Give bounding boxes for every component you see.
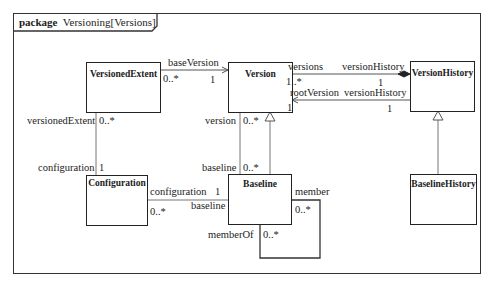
class-versioned-extent[interactable]: VersionedExtent	[86, 62, 161, 113]
diagram-edges	[0, 0, 490, 286]
class-name: Version	[229, 69, 292, 79]
role-version-history-top: versionHistory	[342, 62, 404, 73]
package-keyword: package	[19, 16, 58, 28]
class-version[interactable]: Version	[228, 62, 293, 113]
mult-member-of: 0..*	[263, 230, 279, 241]
mult-base-version-target: 1	[210, 75, 215, 86]
role-baseline-lower: baseline	[191, 201, 225, 212]
class-version-history[interactable]: VersionHistory	[410, 61, 475, 112]
mult-configuration-lower: 1	[215, 187, 220, 198]
class-name: VersionedExtent	[87, 69, 160, 79]
mult-versioned-extent: 0..*	[99, 116, 115, 127]
role-baseline-upper: baseline	[202, 163, 236, 174]
class-name: Configuration	[87, 178, 147, 188]
mult-member: 0..*	[295, 205, 311, 216]
package-title: package Versioning[Versions]	[19, 16, 156, 28]
class-configuration[interactable]: Configuration	[86, 175, 148, 226]
mult-root-version: 1	[287, 103, 292, 114]
mult-configuration-upper: 1	[99, 163, 104, 174]
role-root-version: rootVersion	[290, 88, 339, 99]
role-versioned-extent: versionedExtent	[27, 116, 95, 127]
generalization-triangle-icon	[265, 112, 275, 121]
mult-baseline-upper: 0..*	[243, 163, 259, 174]
mult-version-history-bottom: 1	[387, 104, 392, 115]
class-name: VersionHistory	[411, 68, 474, 78]
role-versions: versions	[288, 62, 323, 73]
role-version: version	[205, 116, 236, 127]
class-name: BaselineHistory	[411, 179, 476, 189]
class-baseline[interactable]: Baseline	[228, 174, 292, 225]
mult-base-version-source: 0..*	[163, 74, 179, 85]
role-configuration-lower: configuration	[150, 187, 207, 198]
role-member: member	[295, 187, 329, 198]
generalization-triangle-icon	[433, 111, 443, 120]
class-name: Baseline	[229, 179, 291, 189]
package-name: Versioning[Versions]	[63, 16, 156, 28]
role-member-of: memberOf	[208, 230, 253, 241]
role-version-history-bottom: versionHistory	[344, 88, 406, 99]
mult-version: 0..*	[243, 116, 259, 127]
mult-baseline-lower: 0..*	[150, 207, 166, 218]
class-baseline-history[interactable]: BaselineHistory	[410, 174, 477, 225]
role-configuration-upper: configuration	[38, 163, 95, 174]
role-base-version: baseVersion	[168, 58, 219, 69]
mult-versions: 1..*	[286, 77, 302, 88]
